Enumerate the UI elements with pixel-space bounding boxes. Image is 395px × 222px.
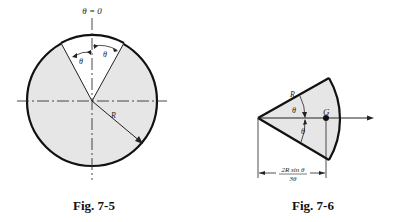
figure-7-6: R θ θ G 2R sin θ 3θ xyxy=(200,0,395,222)
dimension-arrow-left-icon xyxy=(259,171,265,175)
angle-lower-label: θ xyxy=(301,127,305,136)
caption-fig-7-6: Fig. 7-6 xyxy=(292,198,334,214)
dimension-arrow-right-icon xyxy=(319,171,325,175)
angle-left-label: θ xyxy=(79,57,83,66)
theta-zero-label: θ = 0 xyxy=(82,6,102,16)
dimension-numerator: 2R sin θ xyxy=(282,166,305,174)
caption-fig-7-5: Fig. 7-5 xyxy=(73,198,115,214)
dimension-denominator: 3θ xyxy=(289,175,298,183)
angle-upper-label: θ xyxy=(292,106,296,115)
axis-arrowhead-icon xyxy=(367,116,374,121)
radius-label: R xyxy=(110,111,116,120)
centroid-label: G xyxy=(323,107,330,117)
angle-right-label: θ xyxy=(103,50,107,59)
radius-label: R xyxy=(289,90,295,99)
figure-7-5: θ = 0 θ θ R xyxy=(0,0,200,222)
